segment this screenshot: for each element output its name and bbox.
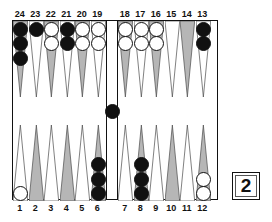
checker[interactable]: [29, 22, 44, 37]
checker[interactable]: [44, 22, 59, 37]
doubling-cube-value: 2: [235, 175, 257, 197]
point-11[interactable]: [180, 21, 195, 199]
checker[interactable]: [134, 157, 149, 172]
checker[interactable]: [91, 157, 106, 172]
point-2[interactable]: [29, 21, 44, 199]
checker[interactable]: [134, 22, 149, 37]
checker[interactable]: [149, 22, 164, 37]
checker[interactable]: [196, 36, 211, 51]
point-10[interactable]: [165, 21, 180, 199]
checker[interactable]: [196, 186, 211, 201]
bar-checker-black[interactable]: [105, 104, 120, 119]
checker[interactable]: [60, 22, 75, 37]
doubling-cube[interactable]: 2: [232, 172, 260, 200]
point-label-13: 13: [193, 9, 211, 19]
checker[interactable]: [196, 22, 211, 37]
point-label-12: 12: [193, 203, 211, 213]
checker[interactable]: [134, 186, 149, 201]
checker[interactable]: [91, 22, 106, 37]
checker[interactable]: [91, 186, 106, 201]
checker[interactable]: [196, 172, 211, 187]
checker[interactable]: [134, 36, 149, 51]
checker[interactable]: [91, 36, 106, 51]
checker[interactable]: [91, 172, 106, 187]
point-label-6: 6: [88, 203, 106, 213]
checker[interactable]: [75, 22, 90, 37]
checker[interactable]: [60, 36, 75, 51]
checker[interactable]: [118, 22, 133, 37]
backgammon-diagram: 242322212019181716151413 123456789101112…: [0, 0, 272, 222]
checker[interactable]: [134, 172, 149, 187]
checker[interactable]: [13, 51, 28, 66]
backgammon-board: [12, 20, 218, 200]
checker[interactable]: [13, 22, 28, 37]
point-label-19: 19: [88, 9, 106, 19]
